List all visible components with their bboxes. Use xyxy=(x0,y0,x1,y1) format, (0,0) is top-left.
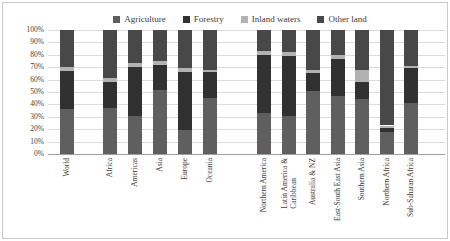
bar-segment-forestry xyxy=(282,56,296,116)
bar-americas xyxy=(128,30,142,154)
legend: AgricultureForestryInland watersOther la… xyxy=(30,14,450,25)
y-tick-label: 100% xyxy=(0,25,44,35)
bar-segment-forestry xyxy=(404,68,418,103)
legend-swatch-forestry-icon xyxy=(183,16,190,23)
bar-segment-forestry xyxy=(331,59,345,96)
bar-segment-other-land xyxy=(178,30,192,68)
legend-label: Forestry xyxy=(194,14,224,25)
bar-segment-other-land xyxy=(282,30,296,52)
bar-segment-other-land xyxy=(355,30,369,70)
bar-segment-inland-waters xyxy=(203,70,217,72)
y-tick-label: 30% xyxy=(0,112,44,122)
x-label-africa: Africa xyxy=(105,158,115,177)
x-label-southern-asia: Southern Asia xyxy=(357,158,367,200)
bar-segment-other-land xyxy=(257,30,271,51)
bar-oceania xyxy=(203,30,217,154)
legend-swatch-inland-waters-icon xyxy=(241,16,248,23)
y-tick-label: 40% xyxy=(0,99,44,109)
bar-segment-inland-waters xyxy=(60,67,74,71)
bar-segment-inland-waters xyxy=(355,70,369,82)
y-tick-label: 60% xyxy=(0,75,44,85)
bar-segment-forestry xyxy=(128,67,142,115)
bar-segment-agriculture xyxy=(203,98,217,154)
bar-east-south-east-asia xyxy=(331,30,345,154)
bar-africa xyxy=(103,30,117,154)
y-tick-label: 70% xyxy=(0,62,44,72)
y-tick-label: 80% xyxy=(0,50,44,60)
bar-northern-africa xyxy=(380,30,394,154)
bar-segment-inland-waters xyxy=(178,68,192,72)
bar-segment-agriculture xyxy=(257,113,271,154)
y-tick-label: 10% xyxy=(0,137,44,147)
legend-item-inland-waters: Inland waters xyxy=(241,14,301,25)
bar-segment-forestry xyxy=(380,128,394,132)
y-tick-label: 0% xyxy=(0,149,44,159)
bar-segment-other-land xyxy=(103,30,117,78)
bar-segment-inland-waters xyxy=(380,126,394,128)
bar-segment-forestry xyxy=(153,65,167,90)
y-tick-label: 20% xyxy=(0,124,44,134)
bar-segment-other-land xyxy=(404,30,418,66)
bar-segment-forestry xyxy=(306,73,320,90)
bar-northern-america xyxy=(257,30,271,154)
bar-segment-agriculture xyxy=(380,132,394,154)
x-label-world: World xyxy=(62,158,72,177)
bar-europe xyxy=(178,30,192,154)
bar-segment-inland-waters xyxy=(153,61,167,65)
bar-segment-agriculture xyxy=(282,116,296,154)
bar-segment-agriculture xyxy=(306,91,320,154)
bar-segment-agriculture xyxy=(331,96,345,154)
bar-segment-agriculture xyxy=(128,116,142,154)
bar-segment-other-land xyxy=(380,30,394,125)
bar-segment-other-land xyxy=(60,30,74,67)
x-label-latin-america-caribbean: Latin America & Caribbean xyxy=(279,158,298,209)
bar-segment-agriculture xyxy=(60,109,74,154)
bar-segment-other-land xyxy=(203,30,217,70)
plot-area xyxy=(48,30,445,154)
bar-australia-nz xyxy=(306,30,320,154)
bar-segment-inland-waters xyxy=(404,66,418,68)
legend-item-other-land: Other land xyxy=(317,14,366,25)
bar-segment-other-land xyxy=(153,30,167,61)
x-label-northern-america: Northern America xyxy=(259,158,269,212)
bar-segment-forestry xyxy=(178,72,192,130)
bar-segment-agriculture xyxy=(404,103,418,154)
x-axis-line xyxy=(48,154,445,155)
bar-sub-saharan-africa xyxy=(404,30,418,154)
x-label-europe: Europe xyxy=(180,158,190,180)
bar-segment-agriculture xyxy=(153,90,167,154)
legend-label: Other land xyxy=(328,14,366,25)
bar-segment-inland-waters xyxy=(257,51,271,55)
bar-segment-other-land xyxy=(306,30,320,70)
bar-segment-forestry xyxy=(355,82,369,99)
bar-segment-forestry xyxy=(203,72,217,98)
y-tick-label: 90% xyxy=(0,37,44,47)
bar-segment-other-land xyxy=(331,30,345,55)
bar-latin-america-caribbean xyxy=(282,30,296,154)
x-label-sub-saharan-africa: Sub-Saharan Africa xyxy=(406,158,416,217)
bar-segment-agriculture xyxy=(355,99,369,154)
legend-swatch-other-land-icon xyxy=(317,16,324,23)
legend-item-agriculture: Agriculture xyxy=(113,14,165,25)
x-label-east-south-east-asia: East-South East Asia xyxy=(333,158,343,221)
bar-segment-agriculture xyxy=(103,108,117,154)
bar-segment-forestry xyxy=(60,71,74,109)
bar-segment-agriculture xyxy=(178,130,192,154)
bar-asia xyxy=(153,30,167,154)
legend-label: Agriculture xyxy=(124,14,165,25)
bar-southern-asia xyxy=(355,30,369,154)
x-label-americas: Americas xyxy=(130,158,140,187)
bar-world xyxy=(60,30,74,154)
bar-segment-inland-waters xyxy=(306,70,320,74)
x-label-oceania: Oceania xyxy=(205,158,215,183)
legend-swatch-agriculture-icon xyxy=(113,16,120,23)
bar-segment-inland-waters xyxy=(282,52,296,56)
bar-segment-forestry xyxy=(103,82,117,108)
bar-segment-forestry xyxy=(257,55,271,113)
x-label-asia: Asia xyxy=(155,158,165,172)
bar-segment-other-land xyxy=(128,30,142,63)
legend-label: Inland waters xyxy=(252,14,301,25)
chart-canvas: AgricultureForestryInland watersOther la… xyxy=(0,0,450,241)
legend-item-forestry: Forestry xyxy=(183,14,224,25)
x-label-northern-africa: Northern Africa xyxy=(382,158,392,206)
